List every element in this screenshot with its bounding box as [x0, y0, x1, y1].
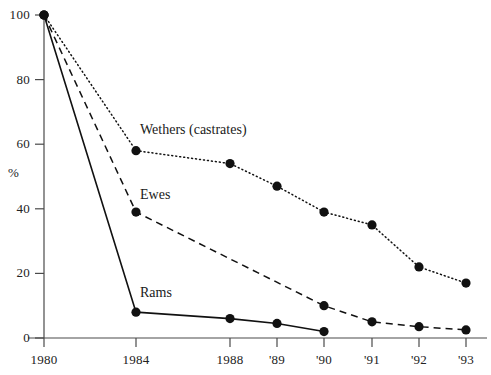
series-annotation: Wethers (castrates) — [140, 122, 247, 138]
x-tick-label: '91 — [364, 352, 380, 368]
y-tick-label: 20 — [0, 265, 30, 281]
data-point-marker — [272, 319, 281, 328]
series-line-ewes — [44, 15, 466, 330]
x-tick-label: '93 — [458, 352, 474, 368]
data-point-marker — [367, 317, 376, 326]
series-line-rams — [44, 15, 324, 332]
data-point-marker — [367, 220, 376, 229]
y-axis-label: % — [8, 165, 19, 181]
series-markers-group — [39, 10, 470, 336]
y-tick-label: 40 — [0, 201, 30, 217]
x-tick-label: '92 — [411, 352, 427, 368]
x-tick-label: '90 — [316, 352, 332, 368]
data-point-marker — [461, 325, 470, 334]
data-point-marker — [272, 182, 281, 191]
y-axis-ticks — [35, 15, 44, 338]
data-point-marker — [319, 207, 328, 216]
series-annotation: Rams — [140, 285, 172, 301]
data-point-marker — [225, 159, 234, 168]
data-point-marker — [414, 322, 423, 331]
x-tick-label: 1984 — [122, 352, 149, 368]
data-point-marker — [414, 262, 423, 271]
data-point-marker — [319, 301, 328, 310]
data-point-marker — [461, 278, 470, 287]
y-tick-label: 60 — [0, 136, 30, 152]
y-tick-label: 100 — [0, 7, 30, 23]
x-axis-ticks — [44, 338, 466, 347]
data-point-marker — [131, 146, 140, 155]
data-point-marker — [39, 10, 48, 19]
data-point-marker — [131, 207, 140, 216]
x-tick-label: '89 — [269, 352, 285, 368]
data-point-marker — [319, 327, 328, 336]
y-tick-label: 0 — [0, 330, 30, 346]
x-tick-label: 1988 — [216, 352, 243, 368]
chart-plot-area — [0, 0, 491, 375]
chart-container: 020406080100 198019841988'89'90'91'92'93… — [0, 0, 491, 375]
data-point-marker — [131, 308, 140, 317]
series-annotation: Ewes — [140, 187, 170, 203]
y-tick-label: 80 — [0, 72, 30, 88]
data-point-marker — [225, 314, 234, 323]
x-tick-label: 1980 — [30, 352, 57, 368]
series-lines-group — [44, 15, 466, 332]
